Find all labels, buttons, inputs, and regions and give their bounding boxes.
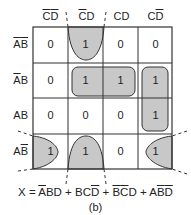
cell-r2-c0: 0 [33, 109, 68, 121]
karnaugh-map-graphic [0, 0, 191, 215]
cell-r3-c0: 1 [33, 145, 68, 157]
row-label-1: AB [0, 74, 28, 86]
cell-r0-c3: 0 [138, 38, 173, 50]
cell-r2-c2: 0 [103, 109, 138, 121]
cell-r1-c2: 1 [103, 74, 138, 86]
cell-r1-c1: 1 [68, 74, 103, 86]
column-header-3: CD [138, 10, 173, 22]
cell-r2-c1: 0 [68, 109, 103, 121]
row-label-3: AB [0, 145, 28, 157]
cell-r1-c3: 1 [138, 74, 173, 86]
cell-r3-c1: 1 [68, 145, 103, 157]
cell-r2-c3: 1 [138, 109, 173, 121]
row-label-0: AB [0, 38, 28, 50]
row-label-2: AB [0, 109, 28, 121]
column-header-0: CD [33, 10, 68, 22]
boolean-equation: X = ABD + BCD + BCD + ABD [0, 186, 191, 198]
cell-r0-c2: 0 [103, 38, 138, 50]
cell-r0-c0: 0 [33, 38, 68, 50]
figure-caption: (b) [0, 201, 191, 213]
cell-r1-c0: 0 [33, 74, 68, 86]
cell-r0-c1: 1 [68, 38, 103, 50]
cell-r3-c2: 0 [103, 145, 138, 157]
column-header-1: CD [69, 10, 104, 22]
cell-r3-c3: 1 [138, 145, 173, 157]
column-header-2: CD [104, 10, 139, 22]
